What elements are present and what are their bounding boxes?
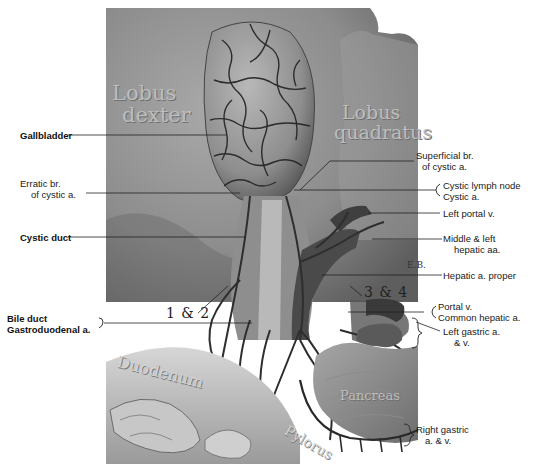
label-left-gastric-artery-vein: Left gastric a. & v.	[443, 326, 500, 348]
label-left-portal-vein: Left portal v.	[443, 208, 495, 219]
label-erratic-branch-cystic-artery: Erratic br. of cystic a.	[20, 178, 76, 200]
number-label-3-and-4: 3 & 4	[364, 284, 408, 300]
label-hepatic-artery-proper: Hepatic a. proper	[443, 270, 516, 281]
artist-signature: E.B.	[407, 260, 426, 270]
organ-label-pancreas: Pancreas	[340, 388, 400, 403]
number-label-1-and-2: 1 & 2	[166, 305, 210, 321]
label-right-gastric-artery-vein: Right gastric a. & v.	[416, 424, 469, 446]
organ-label-lobus-quadratus: Lobus quadratus	[334, 102, 432, 142]
organ-label-lobus-dexter: Lobus dexter	[112, 82, 191, 126]
label-cystic-duct: Cystic duct	[20, 232, 71, 243]
label-bile-duct-gastroduodenal-artery: Bile duct Gastroduodenal a.	[7, 313, 90, 335]
label-cystic-lymph-node-cystic-artery: Cystic lymph node Cystic a.	[443, 180, 521, 202]
label-portal-vein-common-hepatic-artery: Portal v. Common hepatic a.	[438, 301, 520, 323]
anatomical-figure: Lobus dexter Lobus quadratus Duodenum Py…	[0, 0, 546, 464]
label-gallbladder: Gallbladder	[20, 130, 72, 141]
illustration	[0, 0, 546, 464]
gallbladder-shape	[204, 22, 315, 203]
label-middle-left-hepatic-arteries: Middle & left hepatic aa.	[443, 233, 500, 255]
label-superficial-branch-cystic-artery: Superficial br. of cystic a.	[416, 150, 474, 172]
